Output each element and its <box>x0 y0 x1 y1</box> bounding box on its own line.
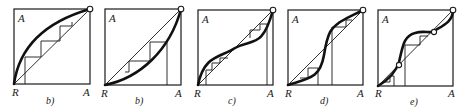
panel-caption: b) <box>46 95 55 107</box>
end-point-marker <box>270 7 276 13</box>
x-axis-label: A <box>447 87 455 99</box>
diagonal-line <box>378 10 453 86</box>
panel-caption: c) <box>228 95 236 107</box>
y-axis-label: A <box>291 13 299 25</box>
diagonal-line <box>105 9 181 85</box>
intersection-point-upper <box>431 29 436 34</box>
origin-label: R <box>193 87 201 99</box>
x-axis-label: A <box>356 87 364 99</box>
staircase-steps <box>25 22 72 84</box>
origin-label: R <box>284 87 292 99</box>
intersection-point-lower <box>396 62 401 67</box>
end-point-marker <box>450 7 456 13</box>
origin-label: R <box>374 87 382 99</box>
y-axis-label: A <box>381 13 389 25</box>
origin-label: R <box>11 86 19 98</box>
staircase-steps-middle <box>405 36 428 86</box>
staircase-steps-upper <box>332 20 352 85</box>
end-point-marker <box>87 6 93 12</box>
diagram-panel-1: A R A b) <box>0 0 100 110</box>
x-axis-label: A <box>266 87 274 99</box>
y-axis-label: A <box>108 12 116 24</box>
diagram-panel-4: A R A d) <box>280 0 375 110</box>
end-point-marker <box>178 6 184 12</box>
origin-label: R <box>100 87 108 99</box>
x-axis-label: A <box>82 86 90 98</box>
x-axis-label: A <box>174 87 182 99</box>
y-axis-label: A <box>201 13 209 25</box>
panel-caption: d) <box>320 95 329 107</box>
y-axis-label: A <box>17 12 25 24</box>
diagram-panel-3: A R A c) <box>190 0 285 110</box>
end-point-marker <box>360 7 366 13</box>
diagram-panel-2: A R A b) <box>95 0 195 110</box>
panel-caption: e) <box>410 96 418 108</box>
diagram-panel-5: A R A e) <box>370 0 464 110</box>
panel-caption: b) <box>135 95 144 107</box>
